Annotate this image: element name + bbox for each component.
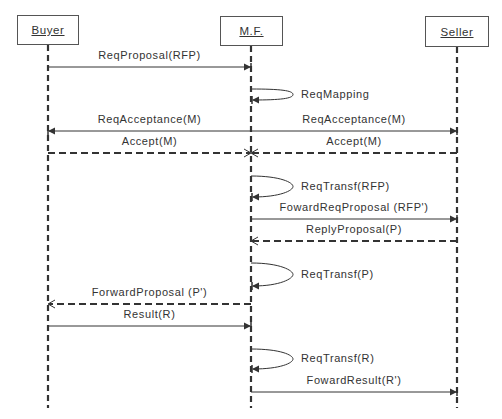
arrowhead-icon — [252, 97, 259, 104]
self-message-arrow — [251, 263, 293, 286]
actor-label-mf: M.F. — [239, 25, 263, 37]
message-label: ReqTransf(P) — [301, 268, 374, 280]
arrowhead-icon — [252, 366, 259, 373]
actor-label-buyer: Buyer — [31, 24, 64, 36]
message-label: ReqMapping — [301, 88, 369, 100]
message-label: ReqTransf(R) — [301, 352, 374, 364]
actor-box-seller: Seller — [425, 16, 489, 47]
actor-box-buyer: Buyer — [17, 15, 79, 45]
message-label: ReplyProposal(P) — [306, 223, 402, 235]
self-message-arrow — [251, 349, 293, 369]
message-label: ReqAcceptance(M) — [98, 113, 202, 125]
arrowhead-icon — [252, 283, 259, 290]
message-label: Accept(M) — [122, 135, 178, 147]
arrowhead-icon — [252, 194, 259, 201]
actor-label-seller: Seller — [440, 26, 473, 38]
message-label: Accept(M) — [326, 135, 382, 147]
message-label: ForwardProposal (P') — [92, 286, 208, 298]
message-label: FowardResult(R') — [307, 374, 402, 386]
self-message-arrow — [251, 176, 293, 197]
message-label: ReqAcceptance(M) — [302, 113, 406, 125]
actor-box-mf: M.F. — [220, 16, 283, 46]
message-label: ReqTransf(RFP) — [301, 180, 390, 192]
message-label: FowardReqProposal (RFP') — [279, 201, 428, 213]
message-label: ReqProposal(RFP) — [98, 49, 201, 61]
message-label: Result(R) — [124, 308, 176, 320]
